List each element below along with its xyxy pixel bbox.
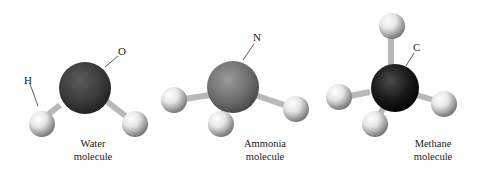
hydrogen-label: H [24,74,32,86]
label-leader [243,44,254,60]
water-molecule: O H Water molecule [24,45,148,162]
hydrogen-atom [29,111,55,137]
methane-caption-line1: Methane [415,138,452,149]
ammonia-caption-line2: molecule [246,151,285,162]
carbon-atom [371,64,419,112]
carbon-label: C [413,41,420,53]
hydrogen-atom [362,111,388,137]
label-leader [30,84,38,106]
hydrogen-atom [208,111,234,137]
oxygen-atom [59,62,111,114]
water-caption-line1: Water [81,138,106,149]
methane-caption-line2: molecule [414,151,453,162]
oxygen-label: O [118,45,126,57]
nitrogen-atom [207,61,259,113]
bond [105,100,128,118]
nitrogen-label: N [253,31,261,43]
label-leader [406,53,414,66]
hydrogen-atom [431,91,457,117]
molecule-diagram: O H Water molecule N Ammonia molecule C … [0,0,481,173]
ammonia-molecule: N Ammonia molecule [161,31,309,162]
water-caption-line2: molecule [74,151,113,162]
hydrogen-atom [283,96,309,122]
hydrogen-atom [122,111,148,137]
hydrogen-atom [326,84,352,110]
methane-molecule: C Methane molecule [326,13,457,162]
hydrogen-atom [161,87,187,113]
label-leader [105,56,118,67]
ammonia-caption-line1: Ammonia [244,138,286,149]
hydrogen-atom [379,13,405,39]
